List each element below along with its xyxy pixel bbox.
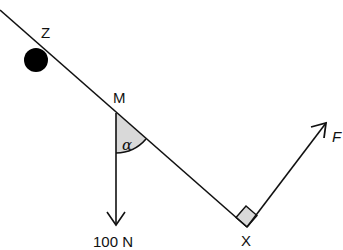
incline-rod [0,10,247,227]
label-alpha: α [122,136,132,154]
force-diagram: Z M α 100 N X F [0,0,343,250]
label-force-f: F [332,128,342,145]
force-f-vector [247,123,326,227]
label-z: Z [41,24,50,41]
label-x: X [241,232,251,249]
right-angle-marker [236,206,257,227]
label-m: M [113,89,126,106]
label-weight: 100 N [93,233,133,250]
ball-z [24,48,48,72]
